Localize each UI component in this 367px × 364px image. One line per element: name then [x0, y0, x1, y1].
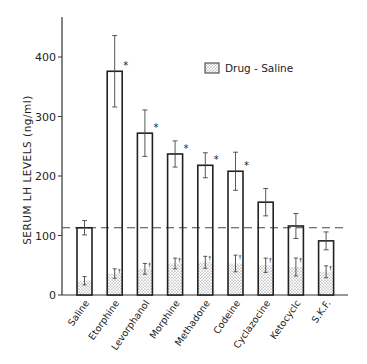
bar-group: †* [198, 153, 219, 295]
bar-group: †* [107, 36, 128, 295]
dagger-mark: † [118, 267, 121, 274]
bar-group: † [258, 188, 273, 295]
y-tick-label: 300 [35, 111, 56, 124]
bar-group [77, 221, 92, 295]
dagger-mark: † [178, 256, 181, 263]
dagger-mark: † [329, 264, 332, 271]
category-labels: SalineEtorphineLevorphanolMorphineMethad… [65, 298, 332, 352]
dagger-mark: † [148, 261, 151, 268]
category-label: Codeine [211, 298, 242, 336]
category-label: S.K.F. [309, 298, 333, 325]
category-label: Ketocyclc [268, 298, 303, 341]
bar-group: †* [137, 110, 158, 295]
bar-group: †* [228, 152, 249, 295]
significance-mark: * [153, 122, 158, 133]
dagger-mark: † [208, 254, 211, 261]
y-axis-label: SERUM LH LEVELS (ng/ml) [21, 95, 33, 245]
bar-group: † [288, 213, 303, 295]
y-tick-label: 200 [35, 170, 56, 183]
legend-swatch [205, 63, 219, 73]
dagger-mark: † [299, 256, 302, 263]
y-tick-label: 0 [49, 289, 56, 302]
significance-mark: * [244, 160, 249, 171]
bar-chart: 0100200300400 †*†*†*†*†*††† SalineEtorph… [0, 0, 367, 364]
dagger-mark: † [239, 253, 242, 260]
category-label: Saline [65, 298, 91, 328]
significance-mark: * [184, 143, 189, 154]
significance-mark: * [214, 154, 219, 165]
significance-mark: * [123, 60, 128, 71]
legend-label: Drug - Saline [225, 62, 293, 74]
y-tick-label: 400 [35, 51, 56, 64]
bar-group: †* [168, 141, 189, 295]
legend: Drug - Saline [205, 62, 293, 74]
bar-group: † [319, 232, 334, 295]
dagger-mark: † [269, 256, 272, 263]
bars: †*†*†*†*†*††† [77, 36, 334, 295]
y-tick-label: 100 [35, 230, 56, 243]
